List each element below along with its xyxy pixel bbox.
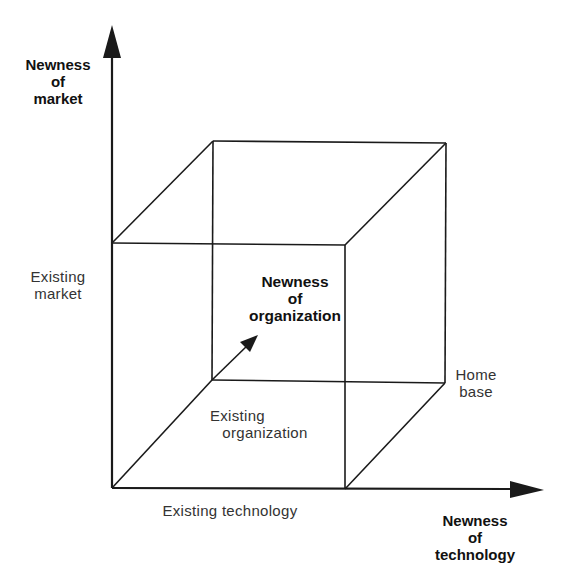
vertical-axis	[103, 25, 121, 488]
existing-market-label: Existing market	[18, 268, 98, 302]
existing-organization-label: Existing organization	[205, 407, 325, 441]
arrow-right-icon	[510, 481, 544, 498]
home-base-label: Home base	[436, 366, 516, 400]
arrow-up-icon	[103, 25, 121, 58]
existing-technology-label: Existing technology	[130, 502, 330, 519]
horizontal-axis	[112, 481, 544, 498]
depth-axis-label: Newness of organization	[230, 273, 360, 324]
depth-axis-arrow	[212, 335, 258, 380]
vertical-axis-label: Newness of market	[14, 56, 102, 107]
horizontal-axis-label: Newness of technology	[425, 512, 525, 563]
